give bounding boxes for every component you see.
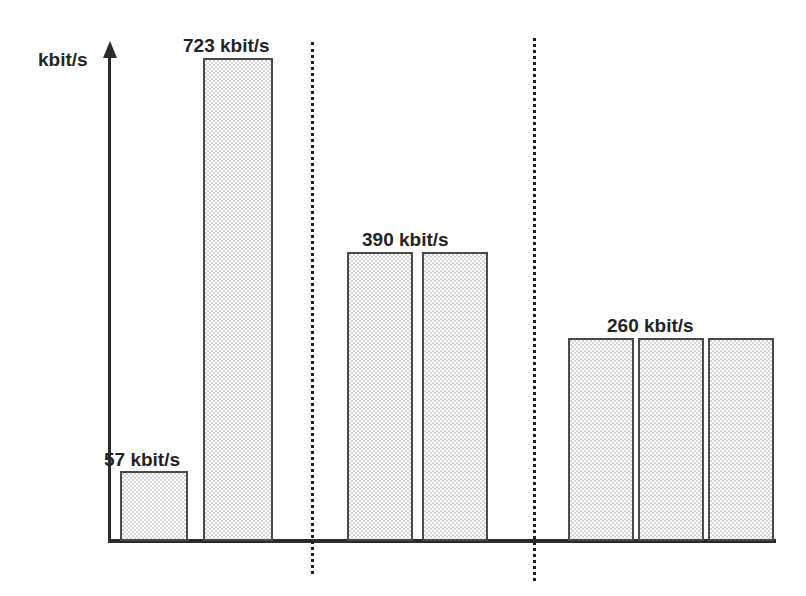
bar-1 <box>120 471 188 541</box>
y-axis-label: kbit/s <box>38 49 88 71</box>
bar-1-value-label: 57 kbit/s <box>104 449 180 471</box>
bar-7 <box>708 338 774 541</box>
bar-3 <box>347 252 413 541</box>
bar-34-value-label: 390 kbit/s <box>362 229 449 251</box>
bar-5 <box>568 338 634 541</box>
group-separator-1 <box>311 42 314 574</box>
group-separator-2 <box>533 38 536 581</box>
bar-2 <box>203 58 273 541</box>
bar-567-value-label: 260 kbit/s <box>607 315 694 337</box>
bar-4 <box>422 252 488 541</box>
bar-chart: kbit/s 57 kbit/s 723 kbit/s 390 kbit/s 2… <box>0 0 806 596</box>
bar-2-value-label: 723 kbit/s <box>183 35 270 57</box>
bar-6 <box>638 338 704 541</box>
